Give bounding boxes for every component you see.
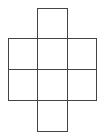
net-diagram — [0, 0, 104, 138]
square-r1c1 — [9, 39, 38, 70]
square-r1c3 — [68, 39, 97, 70]
net-cells — [9, 9, 97, 132]
square-r2c2 — [38, 70, 68, 101]
square-r1c2 — [38, 39, 68, 70]
square-r2c1 — [9, 70, 38, 101]
square-r2c3 — [68, 70, 97, 101]
square-top — [38, 9, 68, 39]
square-bottom — [38, 101, 68, 132]
